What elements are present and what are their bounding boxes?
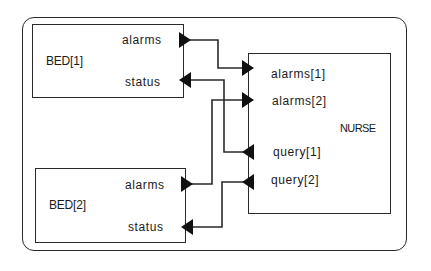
nurse-query1-out-arrow-icon — [242, 144, 254, 160]
nurse-query2-out-arrow-icon — [242, 174, 254, 190]
connections-layer — [0, 0, 431, 271]
bed2-alarms-out-arrow-icon — [181, 176, 193, 192]
wire-nurse-query2-to-bed2-status — [192, 182, 244, 227]
nurse-alarms1-in-arrow-icon — [242, 60, 254, 76]
wire-bed2-alarms-to-nurse-alarms2 — [190, 100, 244, 184]
bed1-alarms-out-arrow-icon — [179, 32, 191, 48]
bed1-status-in-arrow-icon — [179, 72, 191, 88]
system-diagram: BED[1] alarms status BED[2] alarms statu… — [0, 0, 431, 271]
wire-nurse-query1-to-bed1-status — [190, 80, 244, 152]
wire-bed1-alarms-to-nurse-alarms1 — [190, 40, 244, 68]
bed2-status-in-arrow-icon — [181, 219, 193, 235]
nurse-alarms2-in-arrow-icon — [242, 92, 254, 108]
